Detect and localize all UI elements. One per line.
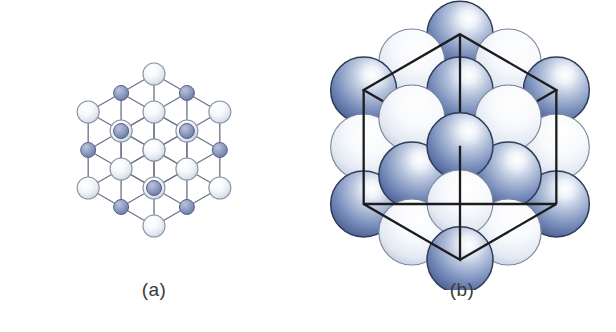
crystal-structure-figure: (a) (0, 0, 616, 332)
ball-and-stick-lattice (0, 0, 308, 290)
atom-anion (209, 101, 231, 123)
atom-anion (176, 158, 198, 180)
atom-anion (209, 177, 231, 199)
atom-anion (143, 215, 165, 237)
atom-cation (147, 181, 162, 196)
atom-cation (212, 143, 227, 158)
atom-anion (110, 158, 132, 180)
atom-anion (143, 101, 165, 123)
panel-b-caption: (b) (308, 279, 616, 301)
atom-cation (179, 124, 194, 139)
panel-b: (b) (308, 0, 616, 332)
atom-anion (143, 63, 165, 85)
panel-a-caption: (a) (0, 279, 308, 301)
atom-cation (179, 86, 194, 101)
atom-anion (77, 101, 99, 123)
atom-cation (114, 86, 129, 101)
atom-anion (77, 177, 99, 199)
space-filling-lattice (308, 0, 616, 290)
atom-anion (143, 139, 165, 161)
atom-cation (114, 124, 129, 139)
atom-cation (179, 200, 194, 215)
panel-a: (a) (0, 0, 308, 332)
atom-cation (81, 143, 96, 158)
atom-cation (114, 200, 129, 215)
